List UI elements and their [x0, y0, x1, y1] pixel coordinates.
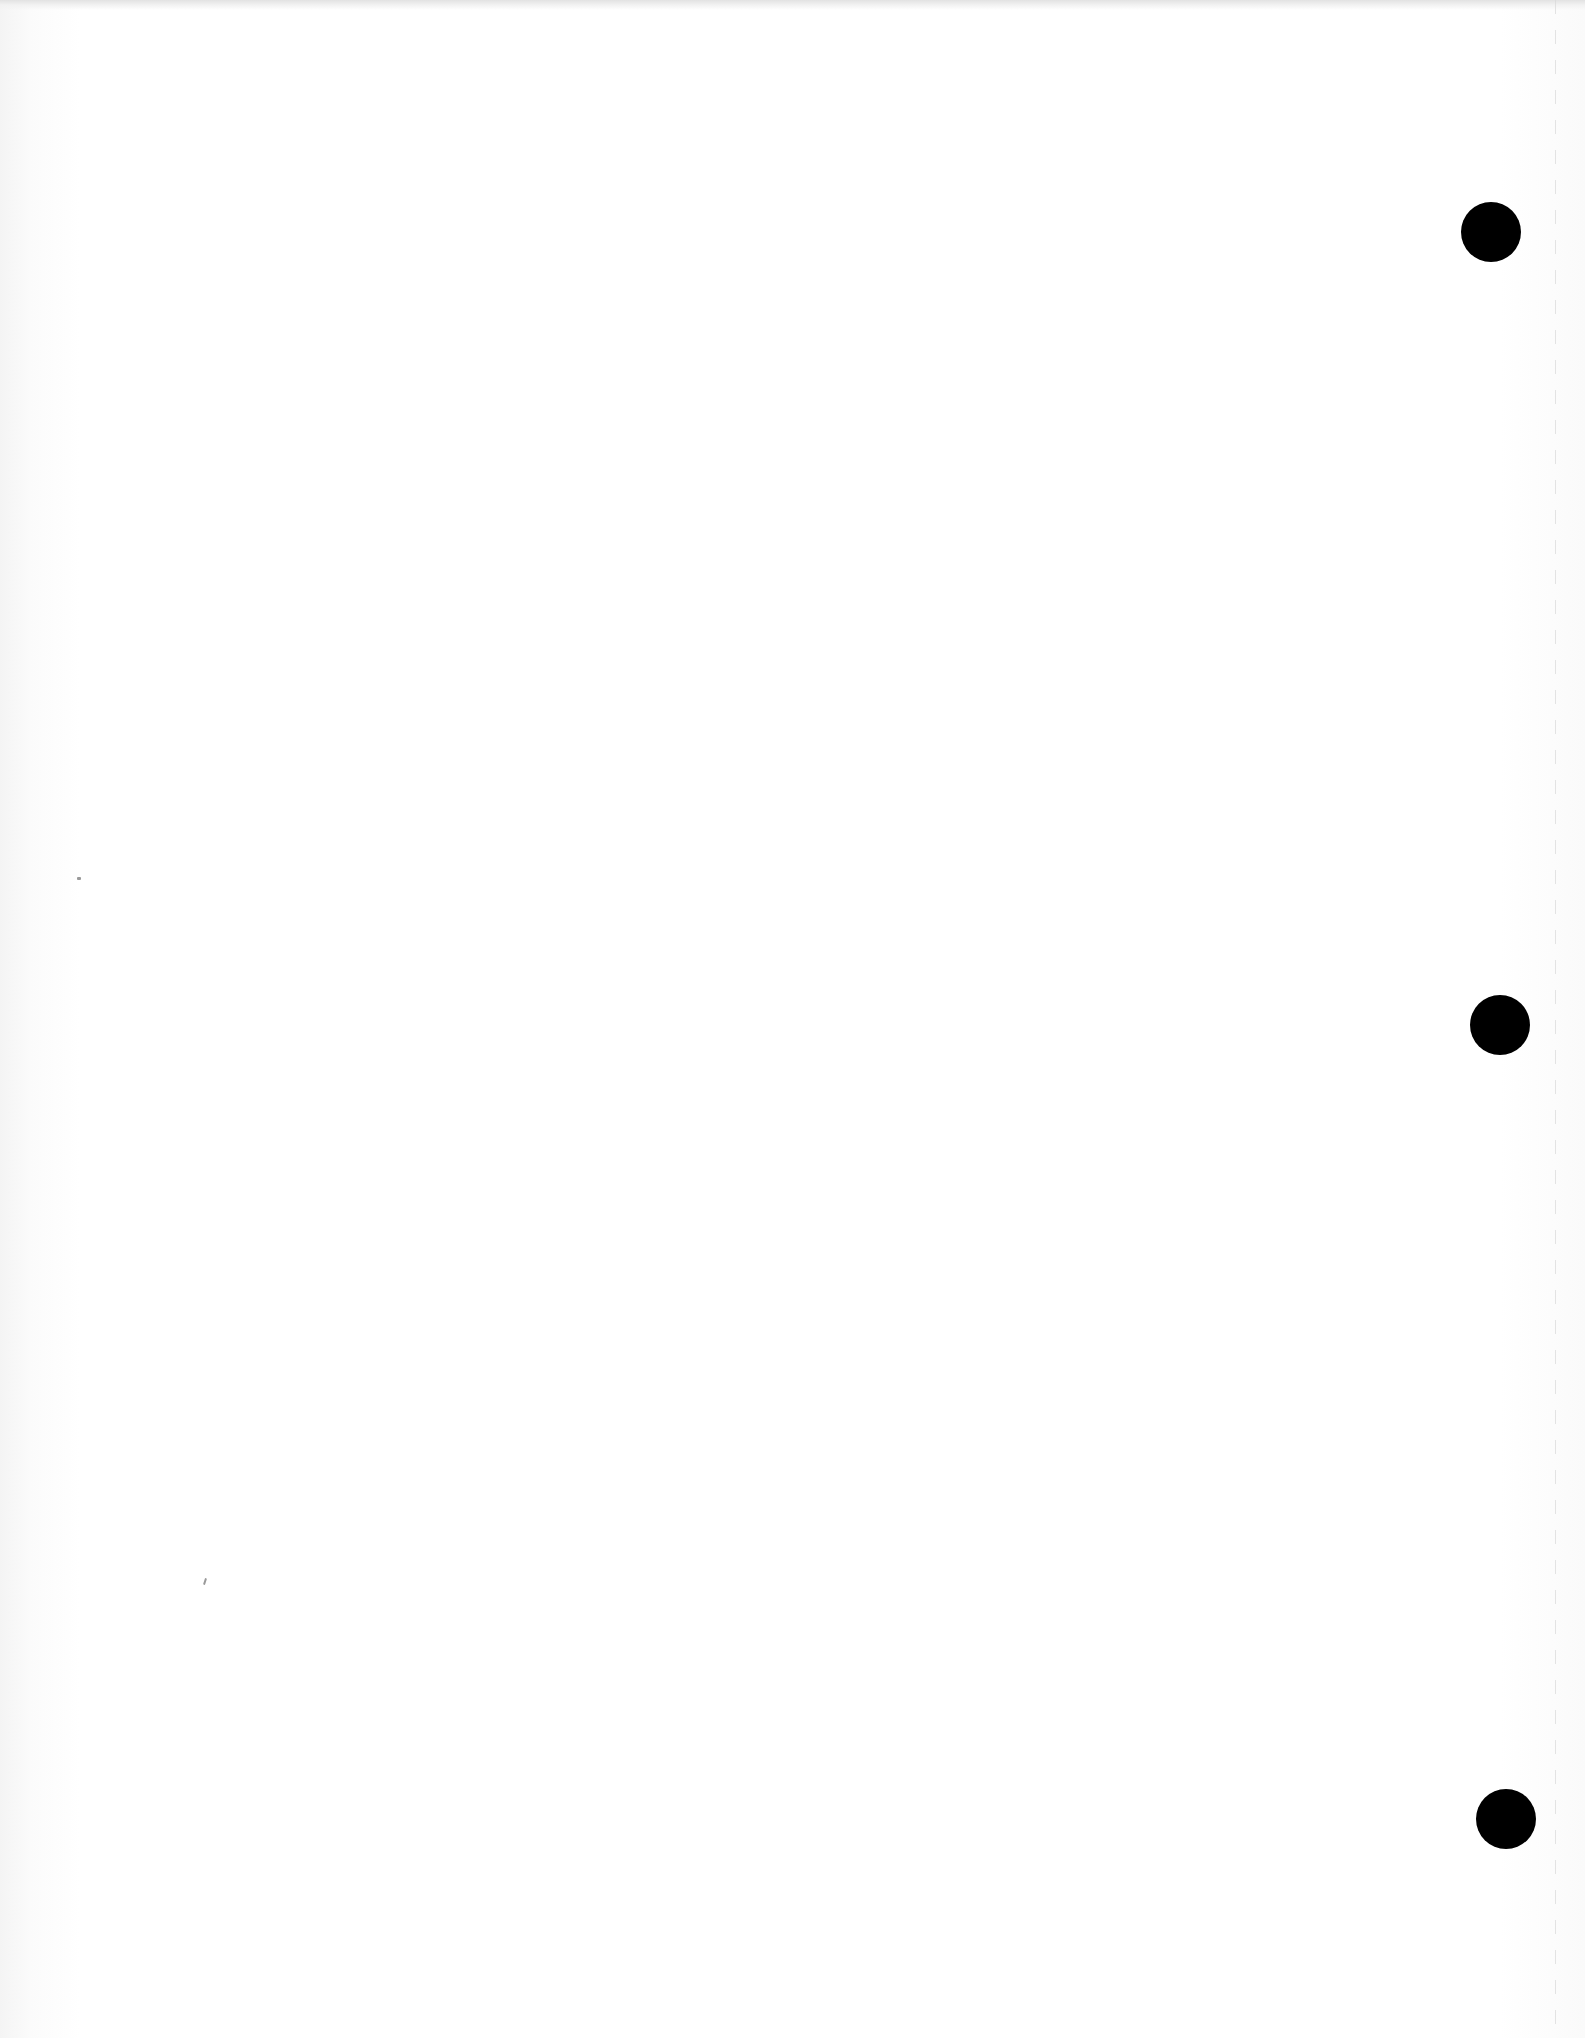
scan-speck: [77, 877, 81, 880]
punch-hole-middle: [1470, 995, 1530, 1055]
punch-hole-bottom: [1476, 1789, 1536, 1849]
scan-speck: [203, 1578, 207, 1585]
punch-hole-top: [1461, 202, 1521, 262]
blank-page: [0, 0, 1585, 2038]
scan-top-edge: [0, 0, 1585, 10]
perforation-line: [1555, 0, 1556, 2038]
